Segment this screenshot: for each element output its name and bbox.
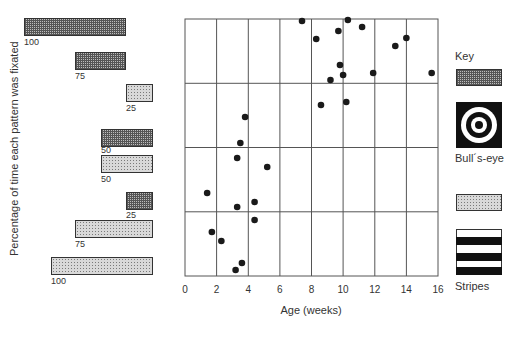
data-point xyxy=(343,99,350,106)
key-label-bullseye: Bull´s-eye xyxy=(455,152,504,164)
data-point xyxy=(264,164,271,171)
data-point xyxy=(428,70,435,77)
x-tick-label: 14 xyxy=(401,284,413,295)
data-point xyxy=(234,155,241,162)
data-point xyxy=(335,28,342,35)
data-point xyxy=(242,114,249,121)
data-point xyxy=(239,260,246,267)
stripes-icon xyxy=(456,229,502,275)
x-tick-label: 8 xyxy=(309,284,315,295)
data-point xyxy=(299,18,306,25)
x-tick-label: 2 xyxy=(214,284,220,295)
x-tick-label: 0 xyxy=(182,284,188,295)
key-title: Key xyxy=(455,50,474,62)
data-point xyxy=(370,70,377,77)
data-points xyxy=(204,17,435,274)
data-point xyxy=(403,35,410,42)
data-point xyxy=(204,190,211,197)
data-point xyxy=(340,72,347,79)
x-axis-ticks: 0246810121416 xyxy=(182,284,444,295)
data-point xyxy=(345,17,352,24)
data-point xyxy=(234,204,241,211)
data-point xyxy=(251,217,258,224)
data-point xyxy=(392,43,399,50)
x-tick-label: 4 xyxy=(245,284,251,295)
x-tick-label: 10 xyxy=(338,284,350,295)
key-stipple-swatch xyxy=(456,194,502,211)
data-point xyxy=(209,229,216,236)
data-point xyxy=(327,77,334,84)
data-point xyxy=(359,24,366,31)
data-point xyxy=(218,238,225,245)
data-point xyxy=(251,199,258,206)
scatter-plot: 0246810121416 Age (weeks) xyxy=(0,0,523,337)
data-point xyxy=(313,36,320,43)
data-point xyxy=(337,62,344,69)
data-point xyxy=(237,140,244,147)
x-tick-label: 12 xyxy=(369,284,381,295)
x-tick-label: 16 xyxy=(432,284,444,295)
x-tick-label: 6 xyxy=(277,284,283,295)
key-check-swatch xyxy=(456,69,502,86)
x-axis-label: Age (weeks) xyxy=(280,304,341,316)
bullseye-icon xyxy=(456,102,502,148)
data-point xyxy=(232,267,239,274)
key-label-stripes: Stripes xyxy=(455,280,489,292)
data-point xyxy=(318,102,325,109)
grid xyxy=(185,19,438,276)
